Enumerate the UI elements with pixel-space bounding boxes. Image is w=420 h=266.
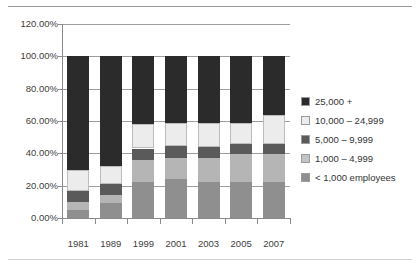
bar-segment[interactable] [198,158,220,182]
bar-segment[interactable] [132,56,154,124]
legend-item[interactable]: 5,000 – 9,999 [301,130,417,149]
chart-legend: 25,000 +10,000 – 24,9995,000 – 9,9991,00… [301,92,417,187]
x-axis-tick [127,219,128,224]
x-axis-tick [257,219,258,224]
legend-item[interactable]: 1,000 – 4,999 [301,149,417,168]
bar-segment[interactable] [198,123,220,147]
legend-item-label: 1,000 – 4,999 [315,153,373,164]
bar-segment[interactable] [67,202,89,210]
y-axis-tick [58,121,63,122]
y-axis-tick-labels: 0.00%20.00%40.00%60.00%80.00%100.00%120.… [0,0,58,266]
legend-item[interactable]: 25,000 + [301,92,417,111]
y-axis-tick [58,89,63,90]
y-axis-tick [58,153,63,154]
bar-segment[interactable] [230,123,252,145]
legend-item-label: < 1,000 employees [315,172,396,183]
bar-1989[interactable] [100,24,122,218]
bar-segment[interactable] [165,146,187,158]
y-axis-tick [58,186,63,187]
bar-1981[interactable] [67,24,89,218]
bar-1999[interactable] [132,24,154,218]
y-axis-tick-label: 60.00% [2,116,58,126]
bar-segment[interactable] [165,179,187,218]
bar-segment[interactable] [132,182,154,218]
y-axis-tick-label: 100.00% [2,51,58,61]
bar-segment[interactable] [165,56,187,122]
y-axis-tick-label: 120.00% [2,19,58,29]
bar-segment[interactable] [263,182,285,218]
bar-segment[interactable] [165,158,187,179]
bar-segment[interactable] [100,195,122,203]
plot-area [62,24,290,218]
bar-2005[interactable] [230,24,252,218]
bar-segment[interactable] [198,182,220,218]
bar-segment[interactable] [230,144,252,154]
bar-segment[interactable] [67,210,89,218]
bar-series-group [62,24,290,218]
x-axis-tick-label-2007: 2007 [254,238,294,249]
bar-segment[interactable] [100,203,122,218]
x-axis-tick [62,219,63,224]
bar-2001[interactable] [165,24,187,218]
bar-segment[interactable] [67,170,89,191]
x-axis-tick [225,219,226,224]
bar-segment[interactable] [263,144,285,155]
legend-item-label: 5,000 – 9,999 [315,134,373,145]
legend-item[interactable]: 10,000 – 24,999 [301,111,417,130]
bar-segment[interactable] [132,124,154,148]
legend-item-label: 10,000 – 24,999 [315,115,384,126]
page-bottom-rule [8,259,412,260]
bar-segment[interactable] [67,56,89,169]
y-axis-tick-label: 80.00% [2,84,58,94]
bar-segment[interactable] [132,160,154,183]
legend-swatch-icon [301,135,310,144]
bar-segment[interactable] [263,115,285,144]
bar-segment[interactable] [165,123,187,146]
legend-swatch-icon [301,116,310,125]
bar-segment[interactable] [132,149,154,160]
bar-segment[interactable] [230,182,252,218]
bar-segment[interactable] [198,56,220,122]
bar-2003[interactable] [198,24,220,218]
bar-segment[interactable] [230,56,252,122]
x-axis-tick [290,219,291,224]
x-axis-tick [192,219,193,224]
x-axis-tick [95,219,96,224]
bar-segment[interactable] [67,191,89,202]
y-axis-tick [58,56,63,57]
x-axis-tick [160,219,161,224]
y-axis-tick-label: 20.00% [2,181,58,191]
bar-segment[interactable] [198,147,220,158]
bar-segment[interactable] [100,184,122,195]
bar-segment[interactable] [100,166,122,184]
y-axis-tick [58,24,63,25]
legend-swatch-icon [301,154,310,163]
bar-segment[interactable] [100,56,122,166]
stacked-bar-chart: 0.00%20.00%40.00%60.00%80.00%100.00%120.… [0,0,420,266]
bar-segment[interactable] [230,154,252,182]
legend-item[interactable]: < 1,000 employees [301,168,417,187]
y-axis-tick-label: 0.00% [2,213,58,223]
bar-segment[interactable] [263,154,285,181]
legend-swatch-icon [301,97,310,106]
bar-segment[interactable] [263,56,285,114]
bar-2007[interactable] [263,24,285,218]
y-axis-tick-label: 40.00% [2,148,58,158]
legend-item-label: 25,000 + [315,96,352,107]
legend-swatch-icon [301,173,310,182]
